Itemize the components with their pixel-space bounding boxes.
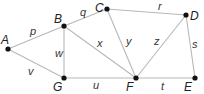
- node-B: [61, 23, 66, 28]
- node-label: A: [0, 33, 9, 47]
- edge-F-D: [136, 15, 186, 78]
- node-label: E: [184, 80, 193, 94]
- edge-label: p: [29, 25, 36, 37]
- node-C: [104, 6, 109, 11]
- edge-label: t: [161, 80, 165, 92]
- node-F: [133, 75, 138, 80]
- edge-label: r: [158, 0, 163, 12]
- edge-label: u: [93, 79, 99, 91]
- edge-C-D: [107, 9, 186, 15]
- node-label: F: [126, 80, 134, 94]
- node-A: [5, 46, 10, 51]
- edge-label: x: [96, 37, 103, 49]
- node-label: G: [53, 80, 62, 94]
- edge-label: y: [125, 35, 133, 47]
- node-label: D: [190, 9, 199, 23]
- graph-diagram: pvqwxryzsut ABCDEFG: [0, 0, 204, 94]
- edge-label: q: [80, 6, 87, 18]
- edge-label: v: [28, 65, 35, 77]
- node-E: [192, 75, 197, 80]
- edge-label: z: [153, 35, 160, 47]
- edge-label: w: [55, 47, 64, 59]
- node-D: [183, 12, 188, 17]
- node-label: C: [95, 1, 104, 15]
- edge-label: s: [192, 38, 198, 50]
- node-label: B: [54, 12, 62, 26]
